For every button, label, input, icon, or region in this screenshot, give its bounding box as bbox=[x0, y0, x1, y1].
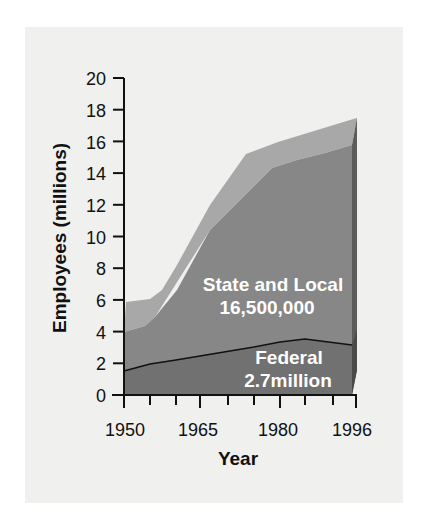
x-tick-1950: 1950 bbox=[105, 420, 145, 440]
x-tick-1996: 1996 bbox=[332, 420, 372, 440]
y-axis-title: Employees (millions) bbox=[49, 143, 70, 333]
state-local-value: 16,500,000 bbox=[219, 297, 314, 318]
x-axis-ticks bbox=[124, 395, 356, 408]
y-tick-18: 18 bbox=[86, 101, 106, 121]
y-tick-2: 2 bbox=[96, 354, 106, 374]
y-tick-20: 20 bbox=[86, 69, 106, 89]
y-tick-8: 8 bbox=[96, 259, 106, 279]
y-tick-4: 4 bbox=[96, 323, 106, 343]
federal-value: 2.7million bbox=[244, 370, 332, 391]
area-chart: 0 2 4 6 8 10 12 14 16 18 20 1950 1965 19… bbox=[0, 0, 426, 528]
federal-label: Federal bbox=[255, 347, 323, 368]
state-local-label: State and Local bbox=[203, 274, 343, 295]
x-tick-1965: 1965 bbox=[178, 420, 218, 440]
y-axis-ticks bbox=[113, 78, 124, 395]
y-axis-tick-labels: 0 2 4 6 8 10 12 14 16 18 20 bbox=[86, 69, 106, 406]
y-tick-10: 10 bbox=[86, 228, 106, 248]
y-tick-16: 16 bbox=[86, 133, 106, 153]
x-tick-1980: 1980 bbox=[258, 420, 298, 440]
x-axis-tick-labels: 1950 1965 1980 1996 bbox=[105, 420, 372, 440]
x-axis-title: Year bbox=[218, 448, 259, 469]
y-tick-12: 12 bbox=[86, 196, 106, 216]
y-tick-6: 6 bbox=[96, 291, 106, 311]
y-tick-14: 14 bbox=[86, 164, 106, 184]
y-tick-0: 0 bbox=[96, 386, 106, 406]
